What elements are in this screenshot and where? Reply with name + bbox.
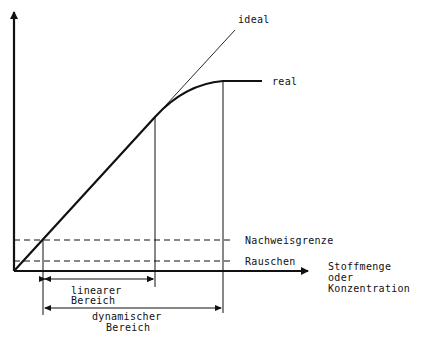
dynamic-range-label-line1: dynamischer xyxy=(92,311,162,322)
detection-limit-label: Nachweisgrenze xyxy=(245,235,334,246)
dynamic-range-arrow-left xyxy=(44,305,51,311)
calibration-diagram: ideal real Nachweisgrenze Rauschen Stoff… xyxy=(0,0,426,337)
real-curve xyxy=(14,81,262,271)
dynamic-range-arrow-right xyxy=(215,305,222,311)
x-axis-label-line2: oder xyxy=(328,272,353,283)
x-axis-label-line1: Stoffmenge xyxy=(328,261,391,272)
ideal-label: ideal xyxy=(238,14,270,25)
noise-label: Rauschen xyxy=(245,256,296,267)
linear-range-arrow-right xyxy=(147,276,154,282)
x-axis-label-line3: Konzentration xyxy=(328,283,410,294)
dynamic-range-label-line2: Bereich xyxy=(106,322,150,333)
linear-range-label-line2: Bereich xyxy=(71,295,115,306)
real-label: real xyxy=(272,76,297,87)
linear-range-arrow-left xyxy=(44,276,51,282)
